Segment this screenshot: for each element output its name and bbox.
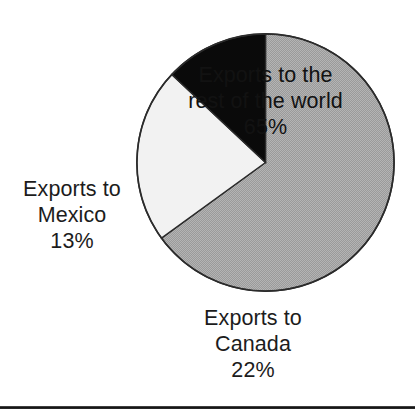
slice-label-line-1: Exports to bbox=[178, 305, 328, 331]
slice-label-line-1: Exports to bbox=[6, 176, 138, 202]
figure-bottom-rule bbox=[0, 406, 415, 409]
slice-label-exports-canada: Exports to Canada 22% bbox=[178, 305, 328, 384]
pie-chart-figure: Exports to the rest of the world 65% Exp… bbox=[0, 0, 415, 416]
slice-label-value: 22% bbox=[178, 357, 328, 383]
slice-label-line-2: Canada bbox=[178, 331, 328, 357]
slice-label-value: 65% bbox=[163, 114, 368, 140]
slice-label-line-1: Exports to the bbox=[163, 62, 368, 88]
slice-label-exports-rest-of-world: Exports to the rest of the world 65% bbox=[163, 62, 368, 141]
slice-label-line-2: rest of the world bbox=[163, 88, 368, 114]
slice-label-line-2: Mexico bbox=[6, 202, 138, 228]
slice-label-exports-mexico: Exports to Mexico 13% bbox=[6, 176, 138, 255]
slice-label-value: 13% bbox=[6, 228, 138, 254]
